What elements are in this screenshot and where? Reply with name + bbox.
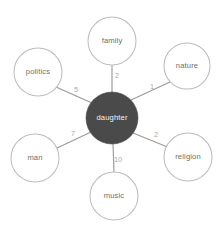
edge-weight-label: 1: [150, 82, 154, 91]
edge-weight-label: 10: [114, 155, 122, 164]
edge-daughter-religion[interactable]: 2: [133, 130, 170, 148]
node-man[interactable]: man: [11, 134, 59, 182]
edge-weight-label: 5: [74, 85, 78, 94]
network-graph-svg: 2 1 2 10 7 5: [0, 0, 224, 229]
edge-line: [133, 133, 170, 148]
node-label: music: [104, 191, 125, 200]
network-graph-container: 2 1 2 10 7 5: [0, 0, 224, 229]
edge-daughter-man[interactable]: 7: [55, 129, 91, 149]
edge-daughter-music[interactable]: 10: [113, 144, 122, 172]
node-label: politics: [26, 67, 50, 76]
node-group: family nature religion music man politic: [11, 17, 212, 220]
node-label: man: [27, 153, 42, 162]
node-religion[interactable]: religion: [164, 133, 212, 181]
edge-daughter-politics[interactable]: 5: [56, 85, 92, 103]
node-label: religion: [175, 152, 201, 161]
node-music[interactable]: music: [90, 172, 138, 220]
edge-daughter-nature[interactable]: 1: [131, 82, 170, 100]
node-label: family: [102, 36, 123, 45]
node-label-center: daughter: [96, 113, 127, 122]
node-nature[interactable]: nature: [164, 43, 210, 89]
node-daughter[interactable]: daughter: [86, 92, 138, 144]
edge-weight-label: 2: [154, 130, 158, 139]
edge-weight-label: 7: [71, 129, 75, 138]
node-label: nature: [176, 61, 198, 70]
node-politics[interactable]: politics: [14, 48, 62, 96]
edge-daughter-family[interactable]: 2: [112, 65, 119, 92]
node-family[interactable]: family: [88, 17, 136, 65]
edge-weight-label: 2: [115, 71, 119, 80]
